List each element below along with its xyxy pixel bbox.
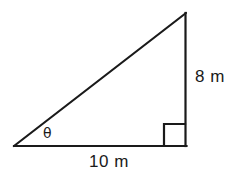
horizontal-side-label: 10 m <box>89 153 129 170</box>
vertical-side-label: 8 m <box>195 68 225 85</box>
triangle-diagram: 8 m 10 m θ <box>0 0 248 177</box>
angle-theta-label: θ <box>43 126 52 140</box>
right-angle-marker-icon <box>164 124 185 145</box>
triangle-graphic <box>0 0 248 177</box>
hypotenuse-line <box>14 13 186 146</box>
